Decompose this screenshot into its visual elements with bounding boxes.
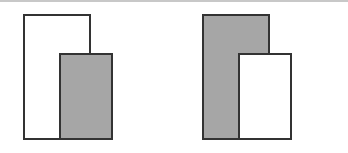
right-panel-front-white-rect xyxy=(238,53,292,140)
left-panel-front-gray-rect xyxy=(59,53,113,140)
top-rule xyxy=(0,0,348,2)
